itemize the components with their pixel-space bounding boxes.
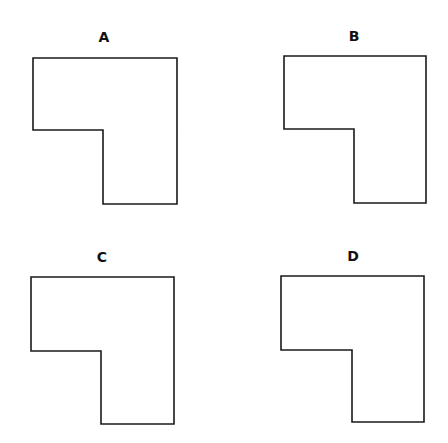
panel-label-b: B [349,28,360,44]
panel-c: C [31,249,174,424]
panel-b: B [284,28,426,203]
panel-d: D [281,248,424,422]
panel-label-d: D [347,248,359,264]
l-shape-a [33,58,177,204]
l-shape-c [31,277,174,424]
figure-canvas: A B C D [0,0,448,443]
panel-a: A [33,29,177,204]
l-shape-b [284,56,426,203]
panel-label-c: C [97,249,107,265]
panel-label-a: A [99,29,110,45]
l-shape-d [281,276,424,422]
